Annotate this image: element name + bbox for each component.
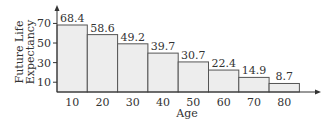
bar-value-label: 49.2 [121, 31, 146, 44]
histogram-chart: 68.41058.62049.23039.74030.75022.46014.9… [0, 0, 330, 125]
x-tick-label: 40 [156, 96, 170, 109]
y-axis-label-line2: Expectancy [24, 19, 37, 84]
y-tick-label: 50 [37, 37, 51, 50]
y-tick-label: 70 [37, 17, 51, 30]
bar [118, 44, 148, 92]
bar [148, 53, 178, 92]
x-tick-label: 30 [126, 96, 140, 109]
x-tick-label: 70 [247, 96, 261, 109]
y-tick-label: 30 [37, 57, 51, 70]
x-axis-arrow-icon [315, 90, 321, 95]
bar [269, 83, 299, 92]
x-tick-label: 60 [217, 96, 231, 109]
bar-value-label: 39.7 [151, 40, 176, 53]
bar-value-label: 22.4 [211, 57, 236, 70]
x-tick-label: 80 [277, 96, 291, 109]
bar-value-label: 30.7 [181, 49, 206, 62]
bar [209, 70, 239, 92]
bar-value-label: 58.6 [90, 22, 115, 35]
bar [87, 35, 117, 92]
x-tick-label: 20 [95, 96, 109, 109]
bar [178, 62, 208, 92]
bar-value-label: 8.7 [276, 70, 294, 83]
y-axis-arrow-icon [55, 5, 60, 11]
x-axis-label: Age [175, 107, 198, 120]
x-tick-label: 10 [65, 96, 79, 109]
bar-value-label: 68.4 [60, 12, 85, 25]
y-tick-label: 10 [37, 76, 51, 89]
bar [57, 25, 87, 92]
bar-value-label: 14.9 [242, 64, 267, 77]
bar [239, 77, 269, 92]
